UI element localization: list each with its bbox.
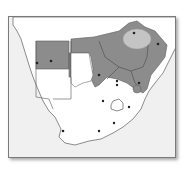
- city-dot: [62, 130, 65, 133]
- city-dot: [36, 62, 39, 65]
- city-dot: [102, 100, 104, 102]
- highlight-region: [123, 29, 151, 49]
- city-dot: [157, 43, 160, 46]
- city-dot: [50, 60, 53, 63]
- city-dot: [98, 74, 101, 77]
- city-dot: [116, 84, 118, 86]
- map-svg: [9, 17, 176, 158]
- lesotho-border: [111, 99, 123, 111]
- city-dot: [113, 122, 115, 124]
- city-dot: [128, 106, 130, 108]
- map-frame: [8, 16, 176, 158]
- city-dot: [98, 130, 100, 132]
- swaziland: [133, 85, 141, 93]
- map-figure: [0, 0, 192, 169]
- city-dot: [133, 32, 136, 35]
- city-dot: [138, 82, 141, 85]
- city-dot: [116, 80, 118, 82]
